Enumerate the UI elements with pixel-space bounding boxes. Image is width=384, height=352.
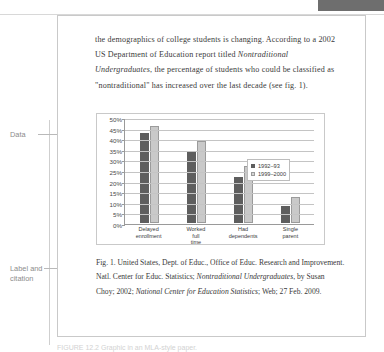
chart-legend-item: 1992–93: [251, 162, 286, 170]
y-axis-tick-label: 35%: [110, 147, 122, 154]
x-axis-tick-label: Delayedenrollment: [125, 226, 172, 246]
legend-label: 1992–93: [258, 162, 280, 170]
annotation-label-citation-line2: citation: [10, 274, 56, 284]
y-axis-tick-label: 25%: [110, 169, 122, 176]
annotation-label-citation-line1: Label and: [10, 264, 56, 274]
y-axis-tick-label: 10%: [110, 200, 122, 207]
y-axis-tick-mark: [122, 172, 125, 173]
chart-gridline: [125, 204, 314, 205]
chart-category-group: [126, 119, 173, 223]
chart-gridline: [125, 151, 314, 152]
y-axis-tick-label: 30%: [110, 158, 122, 165]
chart-inner: 0%5%10%15%20%25%30%35%40%45%50% Delayede…: [97, 114, 324, 244]
x-axis-tick-label: Haddependents: [220, 226, 267, 246]
chart-bar: [291, 197, 300, 223]
y-axis-tick-mark: [122, 140, 125, 141]
x-axis-tick-label: Workedfulltime: [172, 226, 219, 246]
x-axis-tick-label: Singleparent: [267, 226, 314, 246]
chart-x-axis-labels: DelayedenrollmentWorkedfulltimeHaddepend…: [125, 226, 314, 246]
figure-caption: Fig. 1. United States, Dept. of Educ., O…: [96, 256, 345, 299]
figure-chart: 0%5%10%15%20%25%30%35%40%45%50% Delayede…: [96, 113, 325, 245]
y-axis-tick-label: 5%: [113, 211, 122, 218]
legend-label: 1999–2000: [258, 170, 286, 178]
y-axis-tick-label: 15%: [110, 190, 122, 197]
y-axis-tick-mark: [122, 151, 125, 152]
chart-gridline: [125, 214, 314, 215]
chart-gridline: [125, 119, 314, 120]
y-axis-tick-mark: [122, 214, 125, 215]
legend-swatch-icon: [251, 164, 255, 168]
y-axis-tick-label: 50%: [110, 116, 122, 123]
y-axis-tick-mark: [122, 119, 125, 120]
y-axis-tick-label: 40%: [110, 137, 122, 144]
screenshot-root: Data Label and citation the demographics…: [0, 0, 384, 352]
chart-category-group: [173, 119, 220, 223]
document-page: the demographics of college students is …: [57, 15, 366, 337]
y-axis-tick-label: 20%: [110, 179, 122, 186]
annotation-label-citation: Label and citation: [10, 264, 56, 284]
y-axis-tick-mark: [122, 161, 125, 162]
chart-gridline: [125, 140, 314, 141]
y-axis-tick-mark: [122, 204, 125, 205]
body-paragraph: the demographics of college students is …: [95, 32, 339, 93]
chart-gridline: [125, 130, 314, 131]
annotation-vertical-rule: [49, 120, 50, 345]
legend-swatch-icon: [251, 172, 255, 176]
chart-gridline: [125, 193, 314, 194]
chart-legend-item: 1999–2000: [251, 170, 286, 178]
chart-bar: [234, 177, 243, 223]
chart-bar: [140, 133, 149, 223]
corner-tab: [318, 0, 384, 11]
chart-y-axis-labels: 0%5%10%15%20%25%30%35%40%45%50%: [100, 119, 122, 225]
y-axis-tick-mark: [122, 193, 125, 194]
figure-number-strip: FIGURE 12.2 Graphic in an MLA-style pape…: [57, 344, 257, 352]
annotation-data: Data: [10, 130, 26, 140]
y-axis-tick-mark: [122, 183, 125, 184]
y-axis-tick-label: 45%: [110, 126, 122, 133]
chart-gridline: [125, 183, 314, 184]
y-axis-tick-mark: [122, 130, 125, 131]
y-axis-tick-label: 0%: [113, 222, 122, 229]
chart-legend: 1992–931999–2000: [247, 159, 290, 181]
